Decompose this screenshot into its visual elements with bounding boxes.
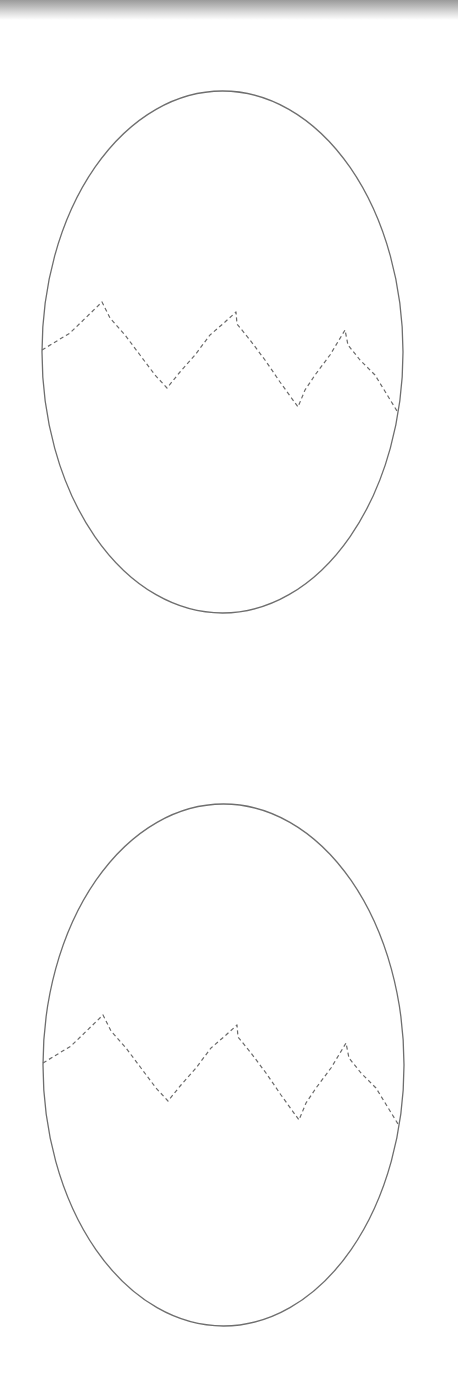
drawing-canvas bbox=[0, 0, 458, 1377]
egg-outline bbox=[42, 91, 403, 613]
egg-crack-line bbox=[43, 1015, 398, 1124]
egg-crack-line bbox=[42, 302, 397, 411]
egg-outline bbox=[43, 804, 404, 1326]
egg-bottom bbox=[43, 804, 404, 1326]
egg-top bbox=[42, 91, 403, 613]
